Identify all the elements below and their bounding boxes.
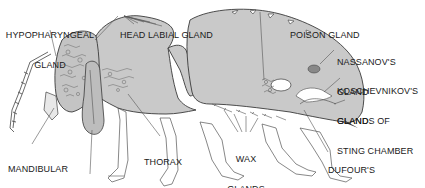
label-line: LABIAL (140, 187, 186, 188)
label-line: GLAND (4, 60, 96, 70)
label-head-labial-gland: HEAD LABIAL GLAND (120, 10, 213, 60)
label-line: GLANDS (224, 184, 268, 188)
label-line: THORAX (140, 157, 186, 167)
label-line: DUFOUR'S (328, 165, 375, 175)
label-hypostomal-gland: HYPOSTOMAL GLAND (4, 172, 101, 188)
ant-gland-diagram: HYPOPHARYNGEAL GLAND HEAD LABIAL GLAND P… (0, 0, 425, 188)
poison-sac (271, 79, 291, 91)
nassanov-gland-shape (308, 65, 320, 73)
label-line: HYPOPHARYNGEAL (4, 30, 96, 40)
label-line: WAX (224, 154, 268, 164)
label-wax-glands: WAX GLANDS (224, 134, 268, 188)
mandible (44, 92, 58, 120)
label-line: KOSCHEVNIKOV'S (337, 86, 418, 96)
label-thorax-labial-gland: THORAX LABIAL GLAND (140, 137, 186, 188)
label-dufours-gland: DUFOUR'S GLAND (328, 145, 375, 188)
label-line: GLANDS OF (337, 116, 413, 126)
label-hypopharyngeal-gland: HYPOPHARYNGEAL GLAND (4, 10, 96, 90)
label-line: HEAD LABIAL GLAND (120, 30, 213, 40)
